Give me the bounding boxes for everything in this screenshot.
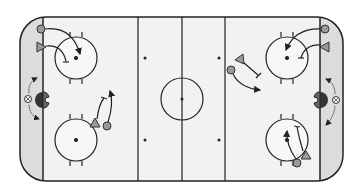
left-coach-icon xyxy=(25,96,32,103)
right-coach-icon xyxy=(333,97,340,104)
player-forward-icon xyxy=(321,25,329,33)
player-forward-icon xyxy=(227,66,235,74)
center-faceoff-dot xyxy=(181,98,184,101)
player-forward-icon xyxy=(103,122,111,130)
hockey-rink-diagram xyxy=(0,0,363,192)
player-forward-icon xyxy=(293,159,301,167)
player-forward-icon xyxy=(37,25,45,33)
